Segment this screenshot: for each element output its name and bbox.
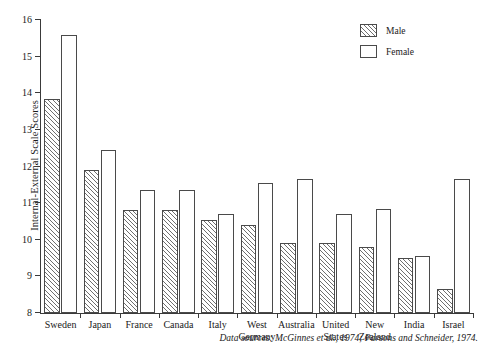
legend: Male Female [360,24,414,66]
x-tick [237,313,238,318]
x-tick [394,313,395,318]
bar-male [359,247,375,313]
y-tick-label: 11 [22,196,32,209]
legend-item-male: Male [360,24,414,37]
bar-female [218,214,234,313]
x-category-label: France [120,319,159,331]
bar-female [454,179,470,313]
y-tick-label: 8 [27,306,32,319]
x-tick [355,313,356,318]
y-tick: 15 [35,56,41,57]
bar-male [241,225,257,313]
bar-female [140,190,156,313]
bar-male [319,243,335,313]
y-tick: 9 [35,275,41,276]
bar-female [258,183,274,313]
figure-caption: Data sources: McGinnes et al., 1974; Par… [0,333,478,343]
y-tick-label: 16 [22,13,32,26]
bar-female [415,256,431,313]
y-tick: 8 [35,312,41,313]
bar-male [162,210,178,313]
bar-male [280,243,296,313]
bar-male [84,170,100,313]
bar-male [437,289,453,313]
bar-male [398,258,414,313]
x-tick [434,313,435,318]
y-tick: 10 [35,239,41,240]
bar-female [101,150,117,313]
y-tick-label: 10 [22,233,32,246]
x-tick [198,313,199,318]
x-category-label: India [394,319,433,331]
legend-label-female: Female [386,47,414,57]
bar-male [123,210,139,313]
legend-item-female: Female [360,45,414,58]
y-tick: 14 [35,92,41,93]
bar-female [179,190,195,313]
legend-swatch-female-icon [360,45,377,58]
x-tick [316,313,317,318]
y-tick-label: 15 [22,50,32,63]
y-tick: 11 [35,202,41,203]
x-tick [159,313,160,318]
bar-female [297,179,313,313]
x-category-label: Australia [277,319,316,331]
figure: Internal-External Scale Scores 891011121… [0,0,491,351]
bar-female [61,35,77,313]
y-tick-label: 13 [22,123,32,136]
x-category-label: Japan [80,319,119,331]
y-tick: 13 [35,129,41,130]
legend-swatch-male-icon [360,24,377,37]
y-tick-label: 9 [27,269,32,282]
x-category-label: Canada [159,319,198,331]
y-tick-label: 14 [22,86,32,99]
bar-female [336,214,352,313]
bar-male [44,99,60,313]
legend-label-male: Male [386,26,406,36]
x-tick [80,313,81,318]
bar-female [376,209,392,313]
x-category-label: Israel [434,319,473,331]
y-tick: 12 [35,166,41,167]
x-tick [473,313,474,318]
y-tick-label: 12 [22,160,32,173]
x-tick [277,313,278,318]
x-category-label: Italy [198,319,237,331]
x-tick [120,313,121,318]
x-category-label: Sweden [41,319,80,331]
y-tick: 16 [35,19,41,20]
bar-male [201,220,217,313]
